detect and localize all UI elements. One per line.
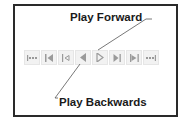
play-forward-leader-line [98,19,152,50]
play-backwards-leader-line [55,64,80,98]
callout-lines [0,0,185,123]
